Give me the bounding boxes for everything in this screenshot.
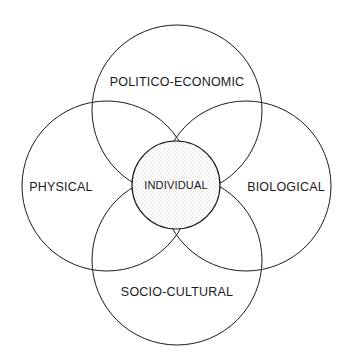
socio-cultural-label: SOCIO-CULTURAL [121,285,233,299]
individual-label: INDIVIDUAL [144,179,208,191]
biological-label: BIOLOGICAL [247,180,325,194]
physical-label: PHYSICAL [29,180,92,194]
diagram-svg: POLITICO-ECONOMIC PHYSICAL BIOLOGICAL SO… [0,0,346,363]
diagram-canvas: POLITICO-ECONOMIC PHYSICAL BIOLOGICAL SO… [0,0,346,363]
politico-economic-label: POLITICO-ECONOMIC [110,75,245,89]
